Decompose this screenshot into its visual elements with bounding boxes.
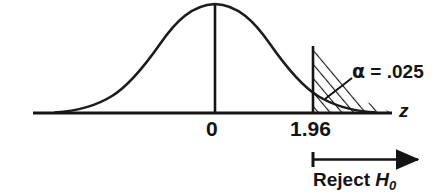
reject-text: Reject	[313, 169, 375, 190]
normal-distribution-figure	[0, 0, 437, 196]
alpha-symbol: α	[352, 60, 365, 82]
hypothesis-symbol: H	[375, 169, 389, 190]
equals-symbol: =	[370, 61, 381, 82]
tick-label-zero: 0	[206, 118, 218, 139]
hypothesis-subscript: 0	[389, 178, 396, 193]
reject-region-label: Reject H0	[313, 170, 396, 189]
axis-label-z: z	[399, 101, 409, 120]
tick-label-critical-value: 1.96	[290, 118, 331, 139]
alpha-value: .025	[387, 61, 424, 82]
reject-region-arrow	[313, 152, 418, 167]
alpha-annotation: α = .025	[352, 62, 424, 81]
